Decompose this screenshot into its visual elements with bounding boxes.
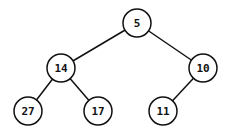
tree-node-left-child: 14: [47, 54, 75, 82]
binary-tree-diagram: 5 14 10 27 17 11: [0, 0, 227, 138]
node-label: 14: [54, 62, 68, 75]
tree-node-leaf: 11: [149, 97, 177, 125]
tree-node-root: 5: [123, 9, 151, 37]
node-label: 27: [21, 105, 34, 118]
tree-node-right-child: 10: [189, 54, 217, 82]
tree-node-leaf: 17: [84, 97, 112, 125]
tree-node-leaf: 27: [14, 97, 42, 125]
node-label: 11: [156, 105, 170, 118]
tree-nodes: 5 14 10 27 17 11: [14, 9, 217, 125]
node-label: 5: [134, 17, 141, 30]
node-label: 17: [91, 105, 104, 118]
node-label: 10: [196, 62, 209, 75]
